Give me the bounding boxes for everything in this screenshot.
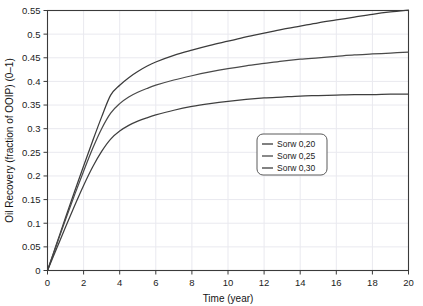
x-tick-label: 10 <box>223 277 234 288</box>
oil-recovery-chart: 00.050.10.150.20.250.30.350.40.450.50.55… <box>0 0 423 306</box>
y-tick-label: 0.2 <box>27 170 40 181</box>
x-tick-label: 2 <box>81 277 86 288</box>
y-tick-label: 0.55 <box>22 5 41 16</box>
y-tick-label: 0.15 <box>22 194 41 205</box>
x-tick-label: 20 <box>403 277 414 288</box>
x-tick-label: 14 <box>295 277 306 288</box>
x-tick-label: 0 <box>45 277 50 288</box>
legend-label-1[interactable]: Sorw 0,25 <box>277 151 316 161</box>
y-axis-title: Oil Recovery (fraction of OOIP) (0–1) <box>4 58 15 223</box>
x-tick-label: 12 <box>259 277 270 288</box>
chart-legend[interactable]: Sorw 0,20Sorw 0,25Sorw 0,30 <box>257 134 327 175</box>
y-tick-label: 0.1 <box>27 218 40 229</box>
y-tick-label: 0.45 <box>22 52 41 63</box>
legend-label-0[interactable]: Sorw 0,20 <box>277 139 316 149</box>
x-tick-label: 4 <box>117 277 122 288</box>
x-tick-label: 16 <box>331 277 342 288</box>
y-tick-label: 0.25 <box>22 147 41 158</box>
x-tick-label: 8 <box>189 277 194 288</box>
legend-label-2[interactable]: Sorw 0,30 <box>277 163 316 173</box>
x-tick-label: 18 <box>367 277 378 288</box>
chart-background <box>0 0 423 306</box>
x-axis-title: Time (year) <box>203 293 254 304</box>
y-tick-label: 0.4 <box>27 76 40 87</box>
y-tick-label: 0.3 <box>27 123 40 134</box>
y-tick-label: 0.35 <box>22 99 41 110</box>
x-tick-label: 6 <box>153 277 158 288</box>
y-tick-label: 0 <box>35 265 40 276</box>
y-tick-label: 0.5 <box>27 29 40 40</box>
chart-canvas: 00.050.10.150.20.250.30.350.40.450.50.55… <box>0 0 423 306</box>
y-tick-label: 0.05 <box>22 241 41 252</box>
